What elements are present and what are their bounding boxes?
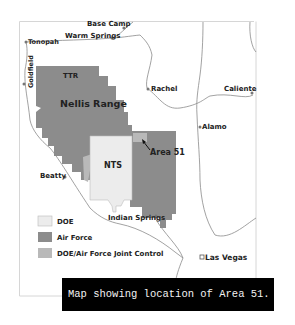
- legend-label-air-force: Air Force: [57, 234, 93, 242]
- label-warm-springs: Warm Springs: [65, 32, 120, 40]
- area51-region: [133, 133, 147, 142]
- area51-map: Base Camp Warm Springs Tonopah Goldfield…: [0, 0, 295, 325]
- label-ttr: TTR: [63, 72, 79, 80]
- legend-label-joint: DOE/Air Force Joint Control: [57, 250, 163, 258]
- map-caption: Map showing location of Area 51.: [62, 278, 274, 311]
- label-beatty: Beatty: [40, 172, 66, 180]
- label-alamo: Alamo: [202, 123, 227, 131]
- nts-doe-region: [90, 136, 132, 212]
- label-tonopah: Tonopah: [28, 38, 59, 46]
- legend-swatch-doe: [38, 216, 52, 226]
- legend-label-doe: DOE: [57, 218, 74, 226]
- label-caliente: Caliente: [224, 85, 257, 93]
- legend: DOE Air Force DOE/Air Force Joint Contro…: [38, 216, 163, 258]
- legend-swatch-joint: [38, 248, 52, 258]
- label-nellis-range: Nellis Range: [60, 98, 127, 109]
- label-base-camp: Base Camp: [87, 20, 131, 28]
- label-las-vegas: Las Vegas: [205, 253, 248, 262]
- label-goldfield: Goldfield: [27, 55, 35, 88]
- label-indian-springs: Indian Springs: [108, 214, 165, 222]
- label-rachel: Rachel: [151, 85, 177, 93]
- label-area51: Area 51: [150, 148, 185, 157]
- legend-swatch-air-force: [38, 232, 52, 242]
- las-vegas-marker: [200, 255, 204, 259]
- label-nts: NTS: [104, 161, 122, 170]
